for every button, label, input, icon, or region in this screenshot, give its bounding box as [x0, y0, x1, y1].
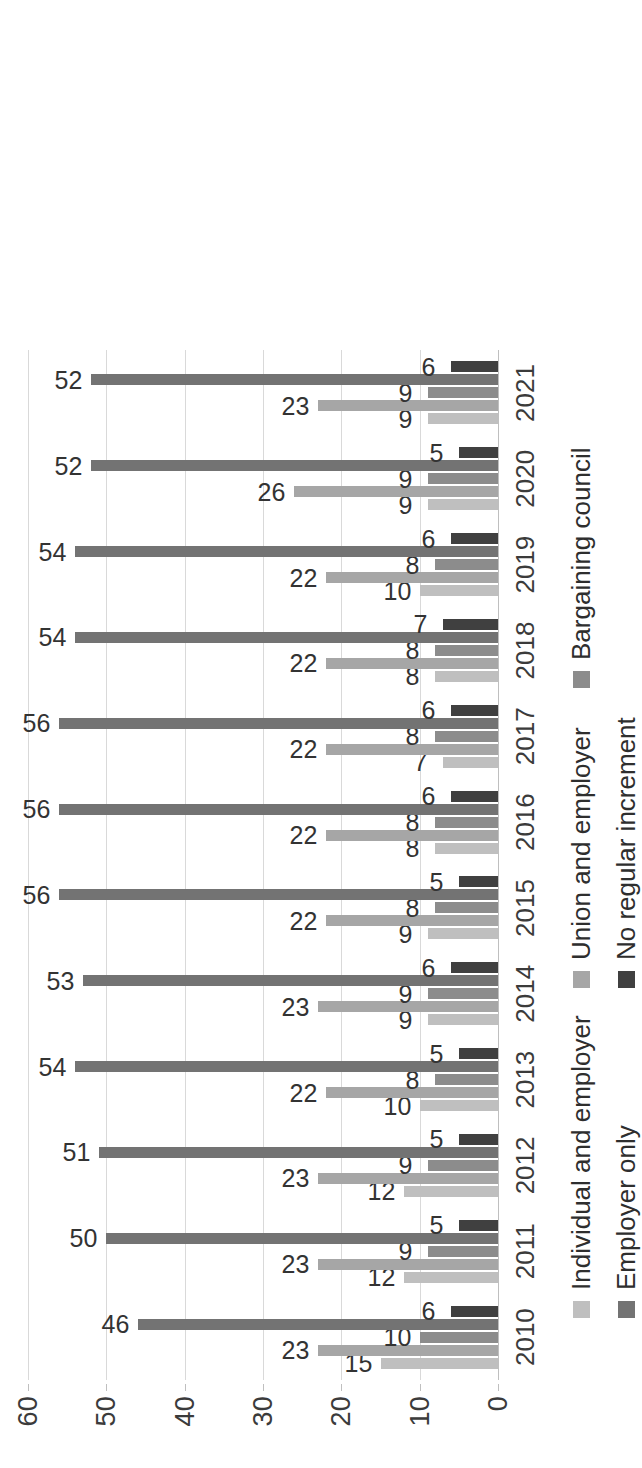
bar-value-label: 5	[429, 1213, 443, 1238]
legend-item[interactable]: No regular increment	[611, 688, 642, 988]
bar-slot: 23	[28, 1173, 498, 1184]
bar-slot: 8	[28, 843, 498, 854]
bar-slot: 9	[28, 1246, 498, 1257]
bar-slot: 52	[28, 460, 498, 471]
bar-value-label: 6	[422, 698, 436, 723]
bar[interactable]	[443, 757, 498, 768]
x-axis-category-label: 2014	[498, 951, 550, 1037]
legend-item[interactable]: Union and employer	[566, 688, 597, 988]
bar[interactable]	[428, 988, 499, 999]
bar-slot: 6	[28, 962, 498, 973]
bar[interactable]	[443, 619, 498, 630]
y-axis-tick-labels: 0102030405060	[28, 1384, 498, 1468]
y-axis-tick-mark	[341, 1384, 342, 1391]
bar[interactable]	[420, 1100, 498, 1111]
bar[interactable]	[435, 817, 498, 828]
bar[interactable]	[459, 447, 498, 458]
bar[interactable]	[404, 1272, 498, 1283]
bar[interactable]	[75, 632, 498, 643]
bar-slot: 10	[28, 585, 498, 596]
bar-slot: 6	[28, 533, 498, 544]
bar-slot: 5	[28, 876, 498, 887]
bar[interactable]	[459, 1220, 498, 1231]
bar[interactable]	[428, 928, 499, 939]
bar-slot: 9	[28, 988, 498, 999]
bar[interactable]	[435, 1074, 498, 1085]
bar[interactable]	[428, 1014, 499, 1025]
bar-slot: 9	[28, 387, 498, 398]
legend-item[interactable]: Individual and employer	[566, 988, 597, 1318]
bar[interactable]	[451, 533, 498, 544]
bar-slot: 6	[28, 361, 498, 372]
bar-slot: 54	[28, 1061, 498, 1072]
legend-item[interactable]: Employer only	[611, 988, 642, 1318]
bar-slot: 22	[28, 658, 498, 669]
x-axis-category-label: 2018	[498, 608, 550, 694]
bar-slot: 7	[28, 757, 498, 768]
y-axis-tick-label: 60	[13, 1396, 44, 1426]
bar[interactable]	[435, 559, 498, 570]
bar[interactable]	[83, 975, 498, 986]
bar[interactable]	[435, 671, 498, 682]
bar-group: 9228565	[28, 865, 498, 951]
bar[interactable]	[451, 705, 498, 716]
bar-group: 10228545	[28, 1037, 498, 1123]
bar[interactable]	[459, 1134, 498, 1145]
bar[interactable]	[428, 387, 499, 398]
bar-slot: 15	[28, 1358, 498, 1369]
y-axis-tick-label: 50	[91, 1396, 122, 1426]
legend-item[interactable]: Bargaining council	[566, 358, 597, 688]
bar[interactable]	[459, 876, 498, 887]
legend-swatch-icon	[618, 1301, 635, 1318]
bar[interactable]	[451, 361, 498, 372]
bar-slot: 6	[28, 1306, 498, 1317]
bar-slot: 8	[28, 731, 498, 742]
bar[interactable]	[428, 473, 499, 484]
bar-group: 9239536	[28, 951, 498, 1037]
bar[interactable]	[459, 1048, 498, 1059]
bar[interactable]	[428, 1246, 499, 1257]
bar-value-label: 6	[422, 526, 436, 551]
bar-slot: 51	[28, 1147, 498, 1158]
x-axis-category-label: 2013	[498, 1037, 550, 1123]
legend-label: Employer only	[611, 1125, 642, 1290]
bar-slot: 8	[28, 645, 498, 656]
bar-group: 12239505	[28, 1208, 498, 1294]
y-axis-tick-mark	[498, 1384, 499, 1391]
bar-slot: 5	[28, 1220, 498, 1231]
bar[interactable]	[435, 731, 498, 742]
legend-swatch-icon	[573, 971, 590, 988]
bar[interactable]	[381, 1358, 499, 1369]
bar[interactable]	[138, 1319, 498, 1330]
bar-slot: 23	[28, 1001, 498, 1012]
legend-row: Employer onlyNo regular increment	[611, 358, 642, 1318]
bar[interactable]	[435, 843, 498, 854]
bar[interactable]	[294, 486, 498, 497]
y-axis-tick-mark	[106, 1384, 107, 1391]
legend-label: No regular increment	[611, 717, 642, 960]
bar[interactable]	[404, 1186, 498, 1197]
bar[interactable]	[420, 1332, 498, 1343]
bar[interactable]	[435, 902, 498, 913]
bar[interactable]	[428, 499, 499, 510]
bar-slot: 6	[28, 705, 498, 716]
bar[interactable]	[428, 413, 499, 424]
bar-group: 7228566	[28, 693, 498, 779]
bar-group: 9269525	[28, 436, 498, 522]
bar-slot: 22	[28, 1087, 498, 1098]
bar[interactable]	[420, 585, 498, 596]
bar[interactable]	[428, 1160, 499, 1171]
bar[interactable]	[435, 645, 498, 656]
y-axis-tick-label: 30	[248, 1396, 279, 1426]
bar[interactable]	[91, 374, 498, 385]
x-axis-category-label: 2017	[498, 693, 550, 779]
bar-slot: 9	[28, 1014, 498, 1025]
bar[interactable]	[451, 791, 498, 802]
bar-group: 8228547	[28, 608, 498, 694]
bar-slot: 10	[28, 1332, 498, 1343]
bar[interactable]	[451, 962, 498, 973]
bar-slot: 9	[28, 1160, 498, 1171]
x-axis-category-label: 2016	[498, 779, 550, 865]
chart-legend: Individual and employerUnion and employe…	[566, 358, 642, 1318]
bar[interactable]	[451, 1306, 498, 1317]
